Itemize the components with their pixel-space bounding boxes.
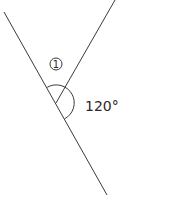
angle-120-label: 120° xyxy=(85,98,119,114)
angle-diagram: 1 120° xyxy=(0,0,187,212)
angle-1-label: 1 xyxy=(53,59,59,70)
